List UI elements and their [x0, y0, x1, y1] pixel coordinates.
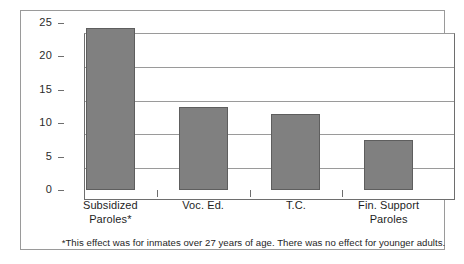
y-axis-tick-0 — [58, 190, 64, 191]
y-axis-tick-5 — [58, 157, 64, 158]
y-axis-label-10: 10 — [30, 117, 52, 128]
y-axis-tick-20 — [58, 56, 64, 57]
gridline-15 — [85, 101, 454, 102]
x-axis-label-3: Fin. SupportParoles — [342, 199, 435, 226]
x-axis-label-1: Voc. Ed. — [157, 199, 250, 213]
gridline-10 — [85, 134, 454, 135]
category-separator-0 — [157, 190, 158, 197]
y-axis-label-20: 20 — [30, 50, 52, 61]
x-axis-label-3-line-0: Fin. Support — [342, 199, 435, 213]
x-axis-label-3-line-1: Paroles — [342, 213, 435, 227]
y-axis-label-15: 15 — [30, 84, 52, 95]
x-axis-label-2: T.C. — [250, 199, 343, 213]
y-axis-label-0: 0 — [30, 184, 52, 195]
category-separator-2 — [342, 190, 343, 197]
gridline-20 — [85, 67, 454, 68]
bar-chart-figure: *This effect was for inmates over 27 yea… — [0, 0, 464, 264]
chart-footnote: *This effect was for inmates over 27 yea… — [43, 237, 464, 248]
x-axis-label-1-line-0: Voc. Ed. — [157, 199, 250, 213]
category-separator-1 — [250, 190, 251, 197]
y-axis-label-5: 5 — [30, 151, 52, 162]
bar-1 — [179, 107, 228, 190]
x-axis-label-2-line-0: T.C. — [250, 199, 343, 213]
y-axis-tick-25 — [58, 23, 64, 24]
x-axis-label-0: SubsidizedParoles* — [64, 199, 157, 226]
x-axis-label-0-line-1: Paroles* — [64, 213, 157, 227]
y-axis-tick-10 — [58, 123, 64, 124]
y-axis-tick-15 — [58, 90, 64, 91]
bar-3 — [364, 140, 413, 190]
figure-frame: *This effect was for inmates over 27 yea… — [20, 10, 445, 250]
bar-0 — [86, 28, 135, 190]
bar-2 — [271, 114, 320, 190]
x-axis-label-0-line-0: Subsidized — [64, 199, 157, 213]
y-axis-label-25: 25 — [30, 17, 52, 28]
